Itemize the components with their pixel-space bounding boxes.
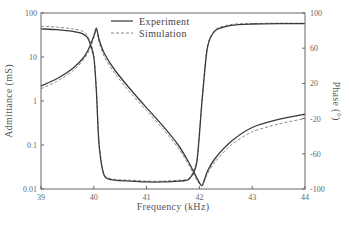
right-axis-title: Phase (°) bbox=[330, 81, 342, 120]
left-axis-title: Admittance (mS) bbox=[3, 64, 15, 138]
plot-series bbox=[41, 23, 305, 186]
left-y-tick-label: 0.1 bbox=[27, 141, 37, 150]
left-y-tick-label: 100 bbox=[25, 9, 37, 18]
left-y-tick-label: 10 bbox=[29, 53, 37, 62]
admittance-simulation-line bbox=[41, 30, 305, 186]
axis-ticks bbox=[41, 13, 305, 189]
x-tick-label: 39 bbox=[37, 193, 45, 202]
left-y-tick-label: 1 bbox=[33, 97, 37, 106]
phase-simulation-line bbox=[41, 23, 305, 181]
legend-label-experiment: Experiment bbox=[139, 16, 190, 27]
x-tick-label: 44 bbox=[301, 193, 309, 202]
right-y-tick-label: -60 bbox=[310, 150, 321, 159]
right-y-tick-label: 60 bbox=[310, 44, 318, 53]
left-y-tick-label: 0.01 bbox=[23, 185, 37, 194]
right-axis-tick-labels: 1006020-20-60-100 bbox=[310, 9, 325, 194]
admittance-phase-chart: 394041424344 1001010.10.01 1006020-20-60… bbox=[0, 0, 349, 225]
left-axis-tick-labels: 1001010.10.01 bbox=[23, 9, 37, 194]
plot-frame bbox=[41, 13, 305, 189]
x-tick-label: 40 bbox=[90, 193, 98, 202]
right-y-tick-label: -20 bbox=[310, 115, 321, 124]
right-y-tick-label: 100 bbox=[310, 9, 322, 18]
legend: Experiment Simulation bbox=[111, 16, 190, 39]
right-y-tick-label: -100 bbox=[310, 185, 325, 194]
phase-experiment-line bbox=[41, 24, 305, 183]
x-tick-label: 43 bbox=[248, 193, 256, 202]
admittance-experiment-line bbox=[41, 28, 305, 185]
right-y-tick-label: 20 bbox=[310, 79, 318, 88]
legend-label-simulation: Simulation bbox=[139, 28, 187, 39]
x-axis-title: Frequency (kHz) bbox=[137, 201, 210, 213]
